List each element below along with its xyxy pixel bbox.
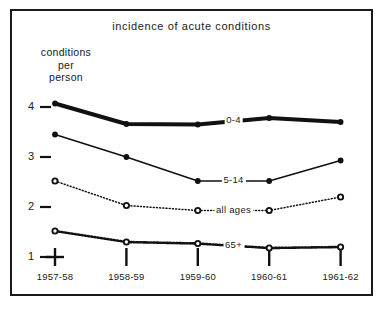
data-point-marker [266,178,272,184]
series-label-0-4: 0-4 [224,114,243,125]
data-point-marker [267,245,272,250]
data-point-marker [267,208,272,213]
y-tick-label: 1 [20,250,34,262]
series-label-all-ages: all ages [214,204,253,215]
data-point-marker [195,208,200,213]
x-tick-label: 1961-62 [310,271,372,282]
data-point-marker [124,203,129,208]
data-point-marker [338,158,344,164]
series-label-5-14: 5-14 [221,174,245,185]
data-point-marker [124,121,130,127]
y-tick-label: 3 [20,150,34,162]
data-point-marker [338,244,343,249]
data-point-marker [195,122,201,128]
data-point-marker [52,132,58,138]
data-point-marker [52,228,57,233]
data-point-marker [266,115,272,121]
series-line [55,135,341,182]
x-tick-label: 1958-59 [95,271,157,282]
series-label-65-: 65+ [223,239,244,250]
data-point-marker [124,154,130,160]
series-canvas [0,0,385,309]
data-point-marker [195,178,201,184]
x-tick-label: 1957-58 [24,271,86,282]
plot-area: 12341957-581958-591959-601960-611961-620… [0,0,385,309]
data-point-marker [338,119,344,125]
data-point-marker [124,239,129,244]
series-line [55,181,341,211]
data-point-marker [52,101,58,107]
data-point-marker [195,241,200,246]
x-tick-label: 1959-60 [167,271,229,282]
chart-figure: incidence of acute conditions conditions… [0,0,385,309]
series-line [55,104,341,125]
data-point-marker [338,194,343,199]
data-point-marker [52,178,57,183]
x-tick-label: 1960-61 [238,271,300,282]
y-tick-label: 4 [20,100,34,112]
y-tick-label: 2 [20,200,34,212]
